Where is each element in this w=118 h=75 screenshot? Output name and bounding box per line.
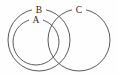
set-label-a: A bbox=[33, 15, 40, 25]
set-label-c: C bbox=[76, 5, 82, 15]
euler-diagram-figure: B C A bbox=[0, 0, 118, 75]
set-label-b: B bbox=[36, 5, 42, 15]
euler-diagram-canvas: B C A bbox=[0, 0, 118, 75]
set-circle-c bbox=[48, 9, 110, 71]
